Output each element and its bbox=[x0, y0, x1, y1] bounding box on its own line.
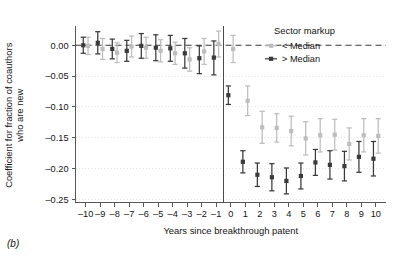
data-point bbox=[361, 119, 366, 152]
marker bbox=[275, 126, 279, 130]
data-point bbox=[197, 46, 202, 74]
data-point bbox=[298, 163, 303, 189]
marker bbox=[144, 46, 148, 50]
coefficient-plot: 0.00–0.05–0.10–0.15–0.20–0.25 –10–9–8–7–… bbox=[0, 0, 398, 260]
legend-label: < Median bbox=[282, 41, 320, 51]
x-axis: –10–9–8–7–6–5–4–3–2–1012345678910 bbox=[76, 203, 387, 220]
x-tick-label: –9 bbox=[95, 209, 105, 219]
marker bbox=[357, 155, 361, 159]
series-below-median bbox=[85, 31, 380, 160]
data-point bbox=[85, 37, 90, 54]
marker bbox=[86, 44, 90, 48]
panel-label-text: (b) bbox=[7, 238, 19, 249]
marker bbox=[115, 51, 119, 55]
data-point bbox=[216, 31, 221, 57]
data-point bbox=[143, 37, 148, 58]
marker bbox=[299, 174, 303, 178]
data-point bbox=[124, 40, 129, 61]
marker bbox=[226, 93, 230, 97]
marker bbox=[289, 129, 293, 133]
series-above-median bbox=[81, 32, 376, 194]
panel-label: (b) bbox=[7, 233, 19, 251]
legend-entry[interactable]: > Median bbox=[265, 54, 320, 64]
data-point bbox=[289, 116, 294, 146]
data-point bbox=[110, 39, 115, 59]
marker bbox=[284, 179, 288, 183]
marker bbox=[260, 125, 264, 129]
y-axis-title-line-2: who are new bbox=[14, 88, 25, 142]
x-tick-label: 10 bbox=[371, 209, 381, 219]
legend: Sector markup< Median> Median bbox=[265, 25, 335, 64]
marker bbox=[255, 173, 259, 177]
x-tick-label: 5 bbox=[301, 209, 306, 219]
y-tick-label: –0.25 bbox=[46, 195, 69, 205]
data-point bbox=[245, 86, 250, 116]
x-tick-label: 3 bbox=[272, 209, 277, 219]
x-tick-label: 6 bbox=[315, 209, 320, 219]
marker bbox=[212, 55, 216, 59]
x-tick-label: –4 bbox=[168, 209, 178, 219]
data-point bbox=[100, 38, 105, 59]
x-tick-label: 4 bbox=[286, 209, 291, 219]
x-tick-label: 1 bbox=[243, 209, 248, 219]
marker bbox=[139, 44, 143, 48]
gridlines bbox=[76, 45, 387, 199]
data-point bbox=[269, 164, 274, 191]
data-point bbox=[231, 35, 236, 62]
marker bbox=[168, 46, 172, 50]
marker bbox=[183, 51, 187, 55]
data-point bbox=[313, 149, 318, 175]
marker bbox=[159, 49, 163, 53]
marker bbox=[197, 56, 201, 60]
data-point bbox=[211, 41, 216, 75]
data-point bbox=[182, 38, 187, 68]
x-tick-label: 8 bbox=[344, 209, 349, 219]
y-axis: 0.00–0.05–0.10–0.15–0.20–0.25 bbox=[46, 26, 76, 205]
data-point bbox=[332, 119, 337, 150]
marker bbox=[371, 157, 375, 161]
data-point bbox=[356, 141, 361, 172]
marker bbox=[202, 49, 206, 53]
marker bbox=[129, 44, 133, 48]
data-point bbox=[81, 37, 86, 53]
marker bbox=[347, 142, 351, 146]
marker bbox=[342, 164, 346, 168]
legend-label: > Median bbox=[282, 54, 320, 64]
data-point bbox=[226, 86, 231, 104]
marker bbox=[333, 133, 337, 137]
data-point bbox=[303, 122, 308, 155]
x-tick-label: –2 bbox=[197, 209, 207, 219]
reference-lines bbox=[76, 26, 387, 203]
legend-title: Sector markup bbox=[274, 25, 335, 36]
marker bbox=[231, 47, 235, 51]
marker bbox=[96, 41, 100, 45]
x-axis-title: Years since breakthrough patent bbox=[163, 225, 298, 236]
legend-entry[interactable]: < Median bbox=[265, 41, 320, 51]
x-tick-label: –3 bbox=[182, 209, 192, 219]
data-point bbox=[240, 151, 245, 173]
data-point bbox=[342, 151, 347, 181]
data-point bbox=[187, 48, 192, 71]
marker bbox=[217, 42, 221, 46]
marker bbox=[246, 99, 250, 103]
marker bbox=[110, 47, 114, 51]
data-point bbox=[327, 151, 332, 179]
data-point bbox=[255, 163, 260, 186]
x-tick-label: –7 bbox=[124, 209, 134, 219]
marker bbox=[304, 136, 308, 140]
marker bbox=[318, 133, 322, 137]
marker bbox=[313, 160, 317, 164]
figure-panel-b: 0.00–0.05–0.10–0.15–0.20–0.25 –10–9–8–7–… bbox=[0, 0, 398, 260]
data-point bbox=[318, 119, 323, 152]
legend-marker bbox=[269, 44, 273, 48]
marker bbox=[270, 175, 274, 179]
marker bbox=[362, 133, 366, 137]
x-tick-label: 2 bbox=[257, 209, 262, 219]
data-point bbox=[371, 141, 376, 176]
data-point bbox=[284, 168, 289, 194]
x-tick-label: –5 bbox=[153, 209, 163, 219]
data-point bbox=[376, 119, 381, 154]
data-point bbox=[260, 111, 265, 143]
y-tick-label: –0.05 bbox=[46, 71, 69, 81]
x-tick-label: –1 bbox=[211, 209, 221, 219]
